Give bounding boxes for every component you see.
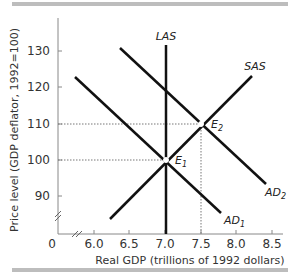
y-tick-120: 120 [27, 80, 50, 94]
x-tick-7-5: 7.5 [191, 237, 210, 251]
e1-label: E1 [175, 154, 187, 169]
sas-curve [110, 76, 252, 219]
y-tick-110: 110 [27, 117, 50, 131]
ad1-curve [75, 77, 221, 213]
x-tick-8-5: 8.5 [262, 237, 281, 251]
sas-label: SAS [244, 60, 266, 73]
ad1-label: AD1 [223, 214, 245, 229]
e1-point [164, 158, 169, 163]
x-tick-7-0: 7.0 [155, 237, 174, 251]
x-tick-6-5: 6.5 [119, 237, 138, 251]
origin-label: 0 [48, 237, 56, 251]
y-tick-100: 100 [27, 153, 50, 167]
e2-label: E2 [211, 118, 223, 133]
x-tick-6-0: 6.0 [84, 237, 103, 251]
x-ticks [94, 230, 272, 234]
ad-as-diagram: 130 120 110 100 90 0 6.0 6.5 7.0 7.5 8.0… [0, 0, 300, 278]
e2-point [199, 122, 204, 127]
y-tick-90: 90 [35, 189, 50, 203]
las-label: LAS [156, 30, 177, 43]
ad2-label: AD2 [264, 186, 286, 201]
x-axis-title: Real GDP (trillions of 1992 dollars) [95, 254, 284, 267]
y-tick-130: 130 [27, 44, 50, 58]
y-axis-title: Price level (GDP deflator, 1992=100) [8, 28, 21, 232]
x-tick-8-0: 8.0 [226, 237, 245, 251]
